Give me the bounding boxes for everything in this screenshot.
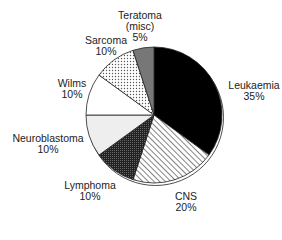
label-lymphoma-pct: 10% (64, 191, 116, 202)
label-sarcoma-pct: 10% (85, 46, 127, 57)
label-neuroblastoma-pct: 10% (12, 144, 83, 155)
label-leukaemia-pct: 35% (228, 91, 279, 102)
label-sarcoma: Sarcoma 10% (85, 35, 127, 57)
label-leukaemia: Leukaemia 35% (228, 80, 279, 102)
label-wilms: Wilms 10% (58, 78, 87, 100)
label-lymphoma: Lymphoma 10% (64, 180, 116, 202)
label-cns-pct: 20% (175, 202, 197, 213)
label-cns: CNS 20% (175, 191, 197, 213)
label-neuroblastoma: Neuroblastoma 10% (12, 133, 83, 155)
label-wilms-pct: 10% (58, 89, 87, 100)
